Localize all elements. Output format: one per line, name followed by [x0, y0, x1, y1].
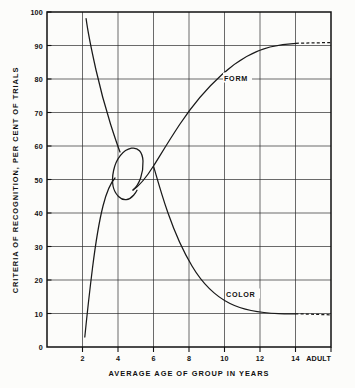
y-tick-label: 10: [35, 310, 43, 319]
y-tick-label: 40: [35, 209, 43, 218]
x-tick-label: 2: [80, 354, 84, 363]
y-axis-tick-labels: 100 90 80 70 60 50 40 30 20 10 0: [30, 8, 43, 352]
x-tick-label: 14: [291, 354, 299, 363]
series-annotation-form: FORM: [223, 73, 252, 83]
y-tick-label: 50: [35, 176, 43, 185]
y-tick-label: 80: [35, 75, 43, 84]
x-tick-label: 8: [187, 354, 191, 363]
x-axis-title: AVERAGE AGE OF GROUP IN YEARS: [109, 369, 270, 378]
chart-canvas: 100 90 80 70 60 50 40 30 20 10 0 2 4 6 8…: [0, 0, 355, 388]
chart-figure: 100 90 80 70 60 50 40 30 20 10 0 2 4 6 8…: [0, 0, 355, 388]
y-tick-label: 100: [30, 8, 43, 17]
series-annotation-color: COLOR: [225, 289, 260, 299]
x-tick-label: 6: [151, 354, 155, 363]
y-tick-label: 0: [39, 343, 43, 352]
y-tick-label: 60: [35, 142, 43, 151]
y-tick-label: 30: [35, 243, 43, 252]
series-label-form: FORM: [224, 74, 248, 83]
x-axis-tick-labels: 2 4 6 8 10 12 14 ADULT: [80, 354, 331, 363]
x-tick-label: 12: [256, 354, 264, 363]
y-tick-label: 70: [35, 109, 43, 118]
y-axis-title: CRITERIA OF RECOGNITION, PER CENT OF TRI…: [11, 67, 20, 294]
series-label-color: COLOR: [226, 290, 256, 299]
y-tick-label: 90: [35, 42, 43, 51]
y-tick-label: 20: [35, 276, 43, 285]
x-tick-label: 10: [220, 354, 228, 363]
x-tick-label: 4: [116, 354, 120, 363]
x-tick-label-adult: ADULT: [306, 354, 331, 363]
